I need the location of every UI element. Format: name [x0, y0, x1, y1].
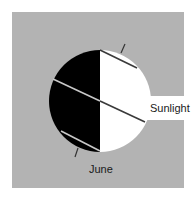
rotation-axis-south: [75, 148, 78, 157]
day-side: [100, 50, 151, 152]
rotation-axis-north: [121, 44, 125, 53]
month-label: June: [89, 163, 113, 175]
sunlight-label: Sunlight: [150, 102, 190, 114]
night-side: [49, 50, 100, 152]
earth-sunlight-diagram: Sunlight June: [0, 0, 196, 200]
